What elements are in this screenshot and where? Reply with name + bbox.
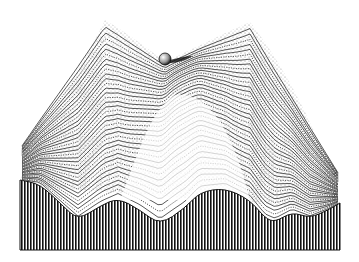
illustration-canvas <box>0 0 359 262</box>
ball-marble <box>159 53 171 65</box>
epigenetic-landscape-illustration <box>0 0 359 262</box>
